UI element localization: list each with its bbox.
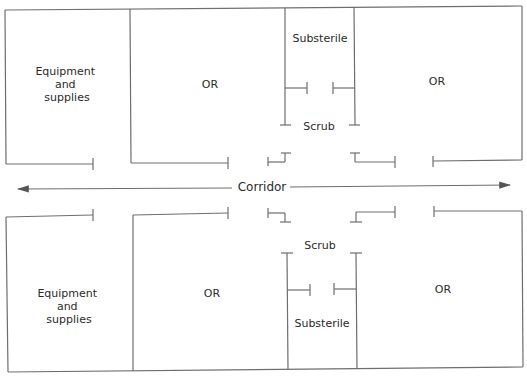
top-row-walls [5, 6, 522, 170]
room-label-substerile-top: Substerile [292, 32, 347, 45]
room-label-or-bottom-left: OR [204, 287, 221, 300]
room-label-or-top-right: OR [429, 75, 446, 88]
room-label-scrub-top: Scrub [303, 120, 335, 133]
room-label-equipment-bottom: Equipment and supplies [37, 287, 100, 326]
corridor-label: Corridor [238, 180, 287, 194]
room-label-or-top-left: OR [202, 78, 219, 91]
room-label-equipment-top: Equipment and supplies [35, 65, 98, 104]
room-label-scrub-bottom: Scrub [304, 239, 336, 252]
room-label-or-bottom-right: OR [435, 283, 452, 296]
room-label-substerile-bottom: Substerile [294, 317, 349, 330]
floor-plan-diagram: Equipment and supplies OR Substerile Scr… [0, 0, 527, 377]
